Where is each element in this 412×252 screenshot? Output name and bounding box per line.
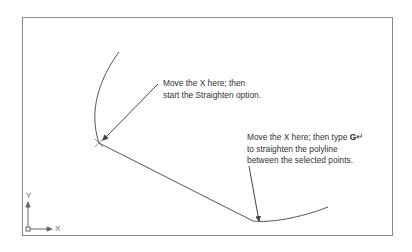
enter-key-icon: ↵ xyxy=(356,131,363,142)
leader-arrow-end-point xyxy=(249,166,259,221)
callout-end-point: Move the X here; then type G↵ to straigh… xyxy=(247,131,363,166)
ucs-y-label: Y xyxy=(26,191,31,200)
callout-start-line2: start the Straighten option. xyxy=(163,89,261,101)
leader-arrow-start-point xyxy=(103,84,158,140)
callout-end-line1-text: Move the X here; then type xyxy=(247,131,350,142)
callout-end-line1: Move the X here; then type G↵ xyxy=(247,131,363,143)
drawing-canvas xyxy=(0,0,412,252)
callout-start-line1: Move the X here; then xyxy=(163,77,261,89)
polyline-curve-upper xyxy=(95,52,119,143)
x-marker xyxy=(95,139,103,147)
ucs-x-label: X xyxy=(55,224,60,233)
polyline-curve-lower xyxy=(253,207,328,221)
callout-end-line2: to straighten the polyline xyxy=(247,143,363,155)
callout-end-line3: between the selected points. xyxy=(247,154,363,166)
polyline-straight-segment xyxy=(99,143,253,221)
ucs-icon xyxy=(26,202,52,231)
callout-start-point: Move the X here; then start the Straight… xyxy=(163,77,261,100)
